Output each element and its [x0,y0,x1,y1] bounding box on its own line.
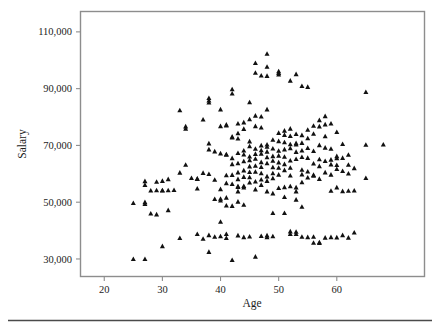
data-point [288,126,293,131]
data-point [235,184,240,189]
data-point [299,148,304,153]
data-point [317,240,322,245]
data-point [265,51,270,56]
data-point [177,170,182,175]
data-point [317,143,322,148]
x-axis-title: Age [242,297,261,310]
x-tick-label: 60 [332,284,343,295]
data-point [247,100,252,105]
data-point [270,154,275,159]
data-point [230,91,235,96]
data-point [363,175,368,180]
data-point [253,163,258,168]
data-point [265,178,270,183]
data-point [166,208,171,213]
data-point [299,140,304,145]
data-point [241,235,246,240]
data-point [212,177,217,182]
data-point [235,189,240,194]
data-point [305,169,310,174]
data-point [160,188,165,193]
data-point [235,121,240,126]
data-point [328,235,333,240]
data-point [253,169,258,174]
data-point [270,171,275,176]
data-point [154,212,159,217]
y-axis: 30,00050,00070,00090,000110,000 [38,26,81,264]
data-point [323,134,328,139]
data-point [247,144,252,149]
data-point [294,72,299,77]
data-point [282,140,287,145]
data-point [247,117,252,122]
data-point [224,195,229,200]
y-tick-label: 50,000 [43,197,72,208]
data-point [218,151,223,156]
data-point [218,124,223,129]
data-point [160,244,165,249]
data-point [317,118,322,123]
data-point [288,146,293,151]
data-point [265,161,270,166]
y-tick-label: 110,000 [38,26,72,37]
data-point [282,147,287,152]
data-point [241,148,246,153]
data-point [270,158,275,163]
data-point [224,235,229,240]
data-point [270,210,275,215]
plot-frame [81,12,425,277]
data-point [340,168,345,173]
data-point [288,142,293,147]
data-point [259,160,264,165]
data-point [212,196,217,201]
data-point [276,130,281,135]
data-point [305,127,310,132]
data-point [294,185,299,190]
data-point [206,172,211,177]
scatter-plot-figure: 30,00050,00070,00090,000110,000 20304050… [0,0,440,329]
data-point [201,117,206,122]
data-point [299,234,304,239]
data-point [235,151,240,156]
data-point [311,149,316,154]
data-point [363,89,368,94]
data-point [247,175,252,180]
data-point [265,64,270,69]
data-point [235,177,240,182]
data-point [305,136,310,141]
data-point [317,124,322,129]
data-point [323,235,328,240]
data-point [352,166,357,171]
data-point [328,157,333,162]
data-point [282,128,287,133]
data-point [241,202,246,207]
data-point [247,170,252,175]
data-point [166,177,171,182]
data-point [224,122,229,127]
data-point [294,197,299,202]
data-point [305,175,310,180]
data-point [177,108,182,113]
data-point [340,141,345,146]
data-point [311,173,316,178]
data-point [201,170,206,175]
y-tick-label: 30,000 [43,254,72,265]
data-point [224,231,229,236]
data-point [160,178,165,183]
data-point [311,240,316,245]
data-point [230,135,235,140]
data-point [259,164,264,169]
data-point [212,234,217,239]
data-point [334,166,339,171]
data-point [154,179,159,184]
data-point [340,233,345,238]
data-point [299,133,304,138]
data-point [282,162,287,167]
data-point [206,233,211,238]
data-point [230,181,235,186]
data-point [148,211,153,216]
data-point [323,122,328,127]
data-point [265,73,270,78]
data-point [294,156,299,161]
data-point [265,149,270,154]
